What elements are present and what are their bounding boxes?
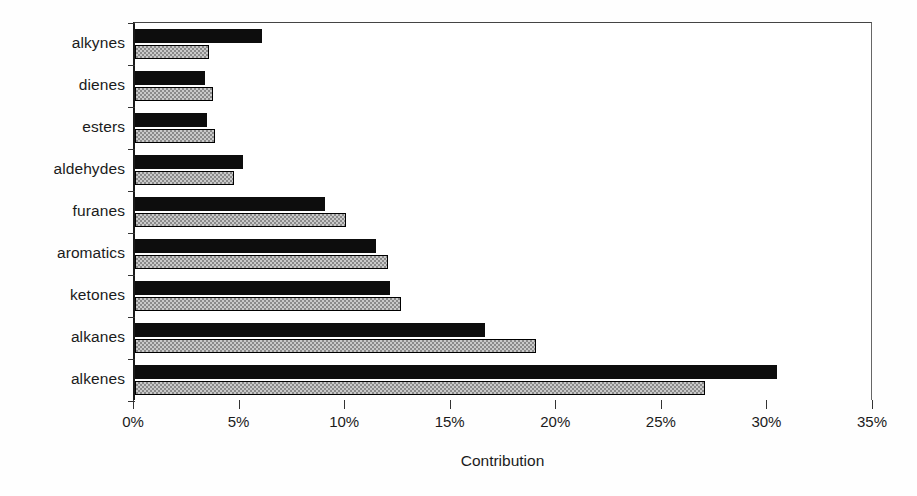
x-axis-tick [239, 400, 240, 409]
bars-layer [135, 23, 871, 400]
x-axis-tick-label: 35% [857, 413, 887, 430]
x-axis-tick [661, 400, 662, 409]
x-axis-title: Contribution [133, 452, 872, 470]
x-axis-tick [555, 400, 556, 409]
bar-dark [135, 239, 376, 253]
y-axis-tick [128, 275, 135, 276]
y-axis-tick [128, 65, 135, 66]
bar-hatched [135, 255, 388, 269]
x-axis-tick [344, 400, 345, 409]
y-axis-label-ketones: ketones [0, 286, 125, 304]
x-axis-tick-label: 30% [751, 413, 781, 430]
y-axis-tick [128, 359, 135, 360]
y-axis-label-dienes: dienes [0, 76, 125, 94]
bar-group [135, 113, 871, 143]
x-axis-tick-label: 15% [435, 413, 465, 430]
bar-group [135, 239, 871, 269]
y-axis-tick [128, 149, 135, 150]
y-axis-label-furanes: furanes [0, 202, 125, 220]
y-axis-tick [128, 191, 135, 192]
bar-dark [135, 113, 207, 127]
x-axis-tick [133, 400, 134, 409]
bar-hatched [135, 45, 209, 59]
bar-group [135, 71, 871, 101]
bar-hatched [135, 381, 705, 395]
y-axis-label-alkenes: alkenes [0, 370, 125, 388]
bar-dark [135, 155, 243, 169]
y-axis-label-esters: esters [0, 118, 125, 136]
y-axis-category-labels: alkynesdienesestersaldehydesfuranesaroma… [0, 22, 125, 400]
bar-hatched [135, 213, 346, 227]
bar-hatched [135, 87, 213, 101]
x-axis-tick-label: 10% [329, 413, 359, 430]
x-axis-tick-label: 0% [122, 413, 144, 430]
y-axis-tick [128, 23, 135, 24]
plot-area [133, 22, 872, 400]
y-axis-tick [128, 107, 135, 108]
bar-group [135, 155, 871, 185]
bar-group [135, 29, 871, 59]
x-axis-tick [450, 400, 451, 409]
y-axis-tick [128, 233, 135, 234]
x-axis-tick [766, 400, 767, 409]
x-axis-tick [872, 400, 873, 409]
x-axis-tick-label: 20% [540, 413, 570, 430]
bar-dark [135, 365, 777, 379]
bar-group [135, 365, 871, 395]
y-axis-label-aldehydes: aldehydes [0, 160, 125, 178]
x-axis-ticks: 0%5%10%15%20%25%30%35% [133, 400, 872, 440]
y-axis-label-aromatics: aromatics [0, 244, 125, 262]
bar-hatched [135, 129, 215, 143]
y-axis-label-alkynes: alkynes [0, 34, 125, 52]
x-axis-tick-label: 25% [646, 413, 676, 430]
bar-hatched [135, 297, 401, 311]
x-axis-tick-label: 5% [228, 413, 250, 430]
bar-dark [135, 197, 325, 211]
bar-dark [135, 323, 485, 337]
y-axis-tick [128, 317, 135, 318]
bar-hatched [135, 339, 536, 353]
bar-chart: alkynesdienesestersaldehydesfuranesaroma… [0, 0, 917, 496]
bar-group [135, 323, 871, 353]
bar-dark [135, 281, 390, 295]
y-axis-label-alkanes: alkanes [0, 328, 125, 346]
bar-group [135, 197, 871, 227]
bar-group [135, 281, 871, 311]
bar-dark [135, 71, 205, 85]
bar-dark [135, 29, 262, 43]
bar-hatched [135, 171, 234, 185]
